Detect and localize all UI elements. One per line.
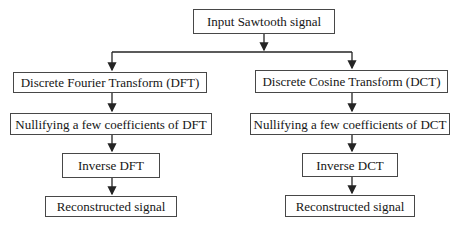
- node-reconstructed-signal-dft: Reconstructed signal: [45, 196, 177, 217]
- node-inverse-dft: Inverse DFT: [62, 153, 160, 178]
- node-nullify-coefficients-dct: Nullifying a few coefficients of DCT: [250, 113, 450, 135]
- flowchart-canvas: Input Sawtooth signal Discrete Fourier T…: [0, 0, 457, 233]
- node-nullify-coefficients-dft: Nullifying a few coefficients of DFT: [10, 113, 212, 135]
- node-input-sawtooth-signal: Input Sawtooth signal: [193, 9, 335, 34]
- node-discrete-fourier-transform: Discrete Fourier Transform (DFT): [13, 72, 207, 93]
- node-reconstructed-signal-dct: Reconstructed signal: [285, 195, 415, 217]
- node-discrete-cosine-transform: Discrete Cosine Transform (DCT): [255, 70, 448, 93]
- node-inverse-dct: Inverse DCT: [302, 153, 398, 177]
